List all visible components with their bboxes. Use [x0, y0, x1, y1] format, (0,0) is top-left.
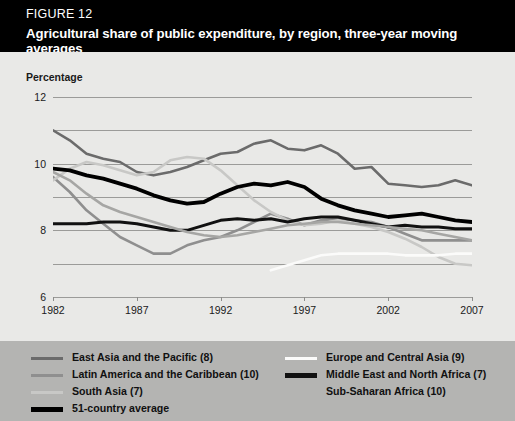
legend-swatch — [285, 357, 317, 360]
legend-swatch — [31, 357, 63, 360]
data-series-line — [53, 130, 472, 187]
x-axis-tick-mark — [472, 297, 473, 301]
x-axis-tick-mark — [53, 297, 54, 301]
figure-container: FIGURE 12 Agricultural share of public e… — [0, 0, 515, 421]
y-axis-tick-label: 8 — [40, 224, 46, 236]
y-axis-tick-label: 6 — [40, 291, 46, 303]
x-axis-tick-mark — [221, 297, 222, 301]
y-axis-tick-label: 12 — [34, 91, 46, 103]
x-axis-tick-label: 1997 — [293, 304, 316, 316]
y-axis-label: Percentage — [26, 71, 83, 83]
x-axis-tick-label: 2007 — [460, 304, 483, 316]
x-axis-tick-mark — [388, 297, 389, 301]
data-series-line — [53, 169, 472, 222]
figure-label: FIGURE 12 — [26, 7, 92, 21]
y-axis-tick-label: 10 — [34, 158, 46, 170]
chart-panel: Percentage 024681012 1982198719921997200… — [0, 52, 515, 341]
legend-swatch — [285, 373, 317, 378]
legend-swatch — [31, 374, 63, 377]
legend-label: South Asia (7) — [72, 385, 143, 397]
legend-label: East Asia and the Pacific (8) — [72, 351, 213, 363]
x-axis-tick-label: 1982 — [41, 304, 64, 316]
legend-label: Middle East and North Africa (7) — [326, 368, 486, 380]
series-lines — [53, 97, 472, 297]
x-axis-tick-label: 2002 — [377, 304, 400, 316]
gridline: 0 — [53, 297, 472, 298]
plot-area: 024681012 198219871992199720022007 — [53, 97, 472, 297]
x-axis-tick-mark — [137, 297, 138, 301]
x-axis-tick-mark — [304, 297, 305, 301]
legend-label: Europe and Central Asia (9) — [326, 351, 465, 363]
legend-swatch — [31, 391, 63, 394]
x-axis-tick-label: 1987 — [125, 304, 148, 316]
figure-title-bar: FIGURE 12 Agricultural share of public e… — [0, 0, 515, 52]
data-series-line — [271, 254, 472, 271]
chart-legend: East Asia and the Pacific (8)Latin Ameri… — [0, 341, 515, 421]
legend-label: Latin America and the Caribbean (10) — [72, 368, 259, 380]
legend-label: 51-country average — [72, 402, 169, 414]
x-axis-tick-label: 1992 — [209, 304, 232, 316]
legend-swatch — [31, 407, 63, 412]
legend-swatch — [285, 391, 317, 394]
legend-label: Sub-Saharan Africa (10) — [326, 385, 446, 397]
